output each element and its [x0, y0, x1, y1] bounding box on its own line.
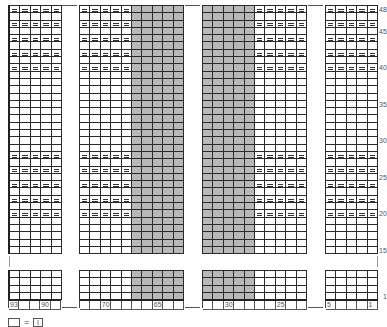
purl-stitch-cell [52, 6, 62, 13]
knit-stitch-cell [52, 101, 62, 108]
knit-stitch-cell [286, 232, 296, 239]
shaded-stitch-cell [142, 232, 152, 239]
knit-stitch-cell [122, 159, 132, 166]
knit-stitch-cell [10, 130, 20, 137]
shaded-stitch-cell [163, 42, 173, 49]
purl-stitch-cell [255, 167, 265, 174]
knit-stitch-cell [368, 286, 378, 293]
shaded-stitch-cell [153, 21, 163, 28]
knit-stitch-cell [255, 115, 265, 122]
knit-stitch-cell [101, 94, 111, 101]
knit-stitch-cell [31, 123, 41, 130]
shaded-stitch-cell [153, 225, 163, 232]
shaded-stitch-cell [153, 240, 163, 247]
knit-stitch-cell [347, 145, 357, 152]
knit-stitch-cell [31, 174, 41, 181]
column-label [51, 301, 61, 310]
knit-stitch-cell [52, 218, 62, 225]
shaded-stitch-cell [142, 152, 152, 159]
knit-stitch-cell [10, 271, 20, 278]
knit-stitch-cell [297, 13, 307, 20]
purl-stitch-cell [255, 64, 265, 71]
purl-stitch-cell [357, 50, 367, 57]
shaded-stitch-cell [142, 137, 152, 144]
shaded-stitch-cell [142, 86, 152, 93]
knit-stitch-cell [52, 72, 62, 79]
shaded-stitch-cell [132, 247, 142, 254]
shaded-stitch-cell [245, 232, 255, 239]
purl-stitch-cell [357, 210, 367, 217]
purl-stitch-cell [336, 21, 346, 28]
knit-stitch-cell [265, 278, 275, 285]
knit-stitch-cell [111, 188, 121, 195]
purl-stitch-cell [101, 35, 111, 42]
knit-stitch-cell [286, 57, 296, 64]
knit-stitch-cell [101, 72, 111, 79]
column-label [142, 301, 152, 310]
knit-stitch-cell [368, 94, 378, 101]
purl-stitch-cell [297, 21, 307, 28]
purl-stitch-cell [265, 210, 275, 217]
shaded-stitch-cell [142, 188, 152, 195]
knit-stitch-cell [368, 145, 378, 152]
shaded-stitch-cell [245, 21, 255, 28]
knit-stitch-cell [122, 42, 132, 49]
knit-stitch-cell [265, 271, 275, 278]
knit-stitch-cell [101, 57, 111, 64]
shaded-stitch-cell [153, 210, 163, 217]
shaded-stitch-cell [174, 94, 184, 101]
knit-stitch-cell [111, 101, 121, 108]
knit-stitch-cell [255, 174, 265, 181]
knit-stitch-cell [52, 247, 62, 254]
knit-stitch-cell [90, 218, 100, 225]
knit-stitch-cell [80, 42, 90, 49]
knit-stitch-cell [101, 188, 111, 195]
knit-stitch-cell [297, 137, 307, 144]
knit-stitch-cell [265, 72, 275, 79]
knit-stitch-cell [276, 108, 286, 115]
purl-stitch-cell [80, 167, 90, 174]
knit-stitch-cell [111, 240, 121, 247]
purl-stitch-cell [20, 152, 30, 159]
purl-stitch-cell [10, 35, 20, 42]
knit-stitch-cell [347, 278, 357, 285]
knit-stitch-cell [52, 79, 62, 86]
knit-stitch-cell [326, 218, 336, 225]
knit-stitch-cell [286, 137, 296, 144]
purl-stitch-cell [111, 6, 121, 13]
knit-stitch-cell [31, 57, 41, 64]
knit-stitch-cell [41, 101, 51, 108]
shaded-stitch-cell [224, 72, 234, 79]
knit-stitch-cell [368, 188, 378, 195]
chart-block-a-bottom [8, 270, 62, 300]
shaded-stitch-cell [234, 57, 244, 64]
knit-stitch-cell [41, 79, 51, 86]
purl-stitch-cell [20, 181, 30, 188]
column-label [357, 301, 367, 310]
shaded-stitch-cell [132, 108, 142, 115]
knit-stitch-cell [80, 188, 90, 195]
purl-stitch-cell [41, 35, 51, 42]
shaded-stitch-cell [203, 64, 213, 71]
purl-stitch-cell [41, 152, 51, 159]
knit-stitch-cell [10, 225, 20, 232]
knit-stitch-cell [41, 115, 51, 122]
purl-stitch-cell [297, 35, 307, 42]
knit-stitch-cell [286, 225, 296, 232]
purl-stitch-cell [326, 35, 336, 42]
knit-stitch-cell [111, 137, 121, 144]
knit-stitch-cell [336, 145, 346, 152]
shaded-stitch-cell [132, 35, 142, 42]
shaded-stitch-cell [234, 94, 244, 101]
knit-stitch-cell [265, 159, 275, 166]
knit-stitch-cell [265, 86, 275, 93]
knit-stitch-cell [31, 225, 41, 232]
shaded-stitch-cell [174, 218, 184, 225]
knit-stitch-cell [286, 28, 296, 35]
shaded-stitch-cell [142, 174, 152, 181]
knit-stitch-cell [90, 240, 100, 247]
purl-stitch-cell [101, 6, 111, 13]
shaded-stitch-cell [174, 210, 184, 217]
knit-stitch-cell [357, 218, 367, 225]
knit-stitch-cell [357, 94, 367, 101]
